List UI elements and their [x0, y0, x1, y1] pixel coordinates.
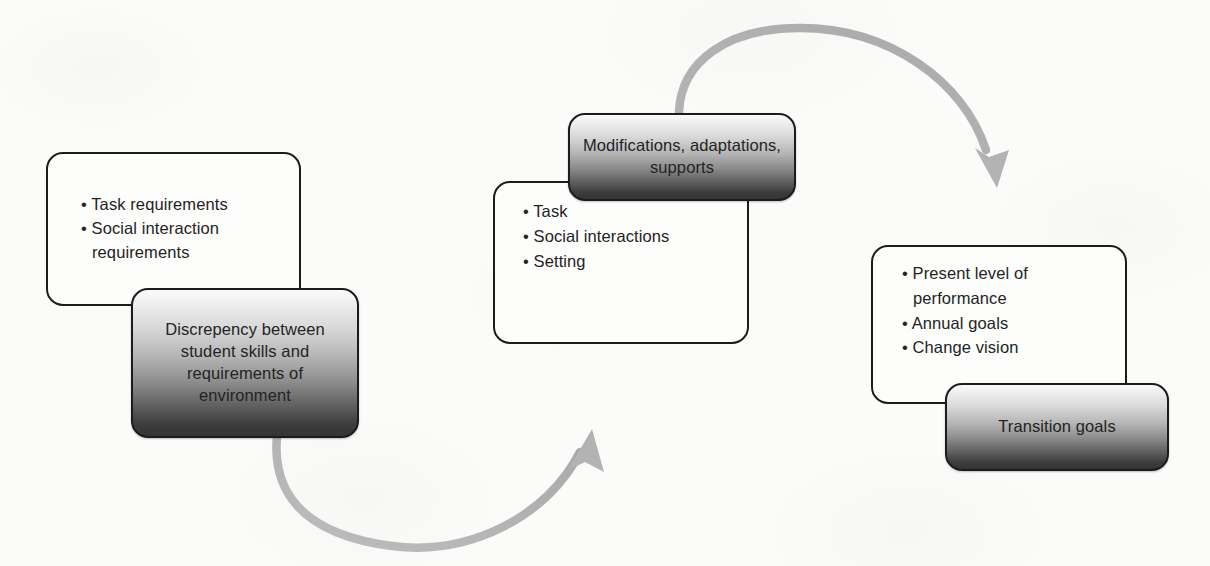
node-modifications-label: Modifications, adaptations, supports [570, 135, 794, 179]
node-discrepancy[interactable]: Discrepency between student skills and r… [131, 288, 359, 438]
node-task-requirements[interactable]: Task requirements Social interaction req… [46, 152, 301, 306]
list-item: Social interactions [523, 224, 669, 249]
list-item: Present level of performance [902, 261, 1125, 311]
task-requirements-list: Task requirements Social interaction req… [81, 193, 299, 265]
list-item: Annual goals [902, 311, 1125, 336]
node-modifications[interactable]: Modifications, adaptations, supports [568, 113, 796, 201]
node-discrepancy-label: Discrepency between student skills and r… [133, 319, 357, 407]
present-level-list: Present level of performance Annual goal… [902, 261, 1125, 360]
node-transition-goals-label: Transition goals [986, 416, 1127, 438]
node-present-level[interactable]: Present level of performance Annual goal… [871, 245, 1127, 404]
list-item: Task [523, 199, 669, 224]
arrow-discrepancy-to-modifications [276, 429, 604, 548]
task-social-setting-list: Task Social interactions Setting [523, 199, 669, 273]
list-item: Social interaction requirements [81, 217, 299, 265]
node-transition-goals[interactable]: Transition goals [945, 383, 1169, 471]
node-task-social-setting[interactable]: Task Social interactions Setting [493, 181, 749, 344]
diagram-canvas: Task requirements Social interaction req… [0, 0, 1210, 566]
list-item: Setting [523, 249, 669, 274]
list-item: Task requirements [81, 193, 299, 217]
list-item: Change vision [902, 335, 1125, 360]
